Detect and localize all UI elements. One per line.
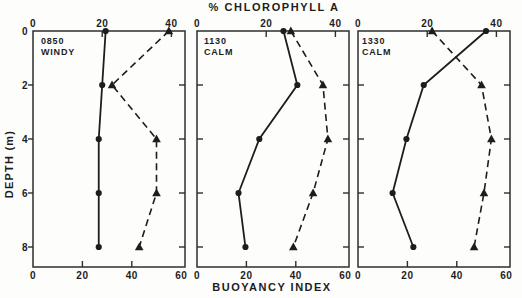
triangle-marker (324, 134, 333, 142)
buoyancy-line (291, 31, 328, 247)
circle-marker (96, 190, 102, 196)
buoyancy-series (108, 26, 173, 250)
tick-label: 4 (22, 134, 28, 145)
tick-label: 20 (76, 270, 88, 281)
panel-1330: 020400204060 (355, 18, 512, 281)
panel-frame (33, 31, 185, 267)
circle-marker (483, 28, 489, 34)
triangle-marker (477, 80, 486, 88)
tick-label: 60 (339, 270, 351, 281)
tick-label: 2 (22, 80, 28, 91)
panel-label-0850-windy: 0850 WINDY (41, 36, 75, 57)
tick-labels: 020400204060 (194, 18, 351, 281)
circle-marker (99, 82, 105, 88)
panel-1130: 020400204060 (194, 18, 351, 281)
circle-marker (390, 190, 396, 196)
tick-label: 0 (355, 270, 361, 281)
panel-time: 0850 (41, 36, 75, 47)
tick-label: 0 (194, 18, 200, 29)
buoyancy-series (287, 26, 333, 250)
figure: 0204002040600246802040020406002040020406… (0, 0, 522, 298)
tick-label: 0 (22, 26, 28, 37)
circle-marker (410, 244, 416, 250)
circle-marker (280, 28, 286, 34)
circle-marker (235, 190, 241, 196)
depth-axis-title: DEPTH (m) (3, 124, 15, 204)
panel-label-1330-calm: 1330 CALM (362, 36, 391, 57)
tick-label: 20 (421, 18, 433, 29)
panel-time: 1330 (362, 36, 391, 47)
buoyancy-line (112, 31, 169, 247)
top-axis-title: % CHLOROPHYLL A (209, 1, 340, 13)
tick-label: 8 (22, 242, 28, 253)
tick-label: 40 (126, 270, 138, 281)
tick-label: 40 (290, 270, 302, 281)
triangle-marker (470, 242, 479, 250)
tick-label: 40 (165, 18, 177, 29)
circle-marker (403, 136, 409, 142)
tick-label: 60 (500, 270, 512, 281)
circle-marker (256, 136, 262, 142)
panel-label-1130-calm: 1130 CALM (204, 36, 233, 57)
tick-label: 60 (175, 270, 187, 281)
panel-frame (197, 31, 349, 267)
triangle-marker (480, 188, 489, 196)
axis-ticks (197, 31, 349, 267)
panel-condition: WINDY (41, 47, 75, 58)
tick-label: 20 (240, 270, 252, 281)
triangle-marker (487, 134, 496, 142)
tick-label: 40 (451, 270, 463, 281)
panel-condition: CALM (362, 47, 391, 58)
panel-time: 1130 (204, 36, 233, 47)
axis-ticks (358, 31, 510, 267)
tick-label: 0 (194, 270, 200, 281)
chlorophyll-series (390, 28, 490, 250)
tick-label: 0 (355, 18, 361, 29)
panel-0850: 02040020406002468 (22, 18, 187, 281)
triangle-marker (319, 80, 328, 88)
circle-marker (421, 82, 427, 88)
triangle-marker (152, 188, 161, 196)
triangle-marker (289, 242, 298, 250)
buoyancy-line (432, 31, 491, 247)
tick-label: 20 (260, 18, 272, 29)
tick-label: 20 (96, 18, 108, 29)
bottom-axis-title: BUOYANCY INDEX (212, 281, 331, 293)
circle-marker (103, 28, 109, 34)
panel-frame (358, 31, 510, 267)
circle-marker (96, 136, 102, 142)
triangle-marker (309, 188, 318, 196)
circle-marker (294, 82, 300, 88)
tick-label: 6 (22, 188, 28, 199)
chlorophyll-line (239, 31, 298, 247)
chlorophyll-series (96, 28, 109, 250)
circle-marker (242, 244, 248, 250)
tick-label: 0 (30, 18, 36, 29)
chart-canvas: 0204002040600246802040020406002040020406… (0, 0, 522, 298)
tick-label: 40 (490, 18, 502, 29)
buoyancy-series (428, 26, 496, 250)
circle-marker (96, 244, 102, 250)
panel-condition: CALM (204, 47, 233, 58)
tick-label: 20 (401, 270, 413, 281)
chlorophyll-series (235, 28, 300, 250)
axis-ticks (28, 31, 185, 267)
tick-label: 40 (329, 18, 341, 29)
tick-label: 0 (30, 270, 36, 281)
triangle-marker (135, 242, 144, 250)
tick-labels: 020400204060 (355, 18, 512, 281)
